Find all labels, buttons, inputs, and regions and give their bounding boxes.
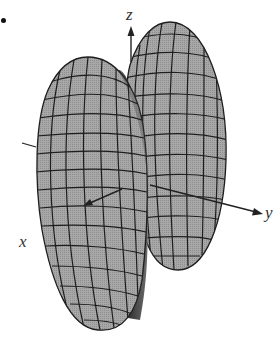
- y-axis-label: y: [265, 204, 273, 221]
- z-axis-label: z: [126, 6, 133, 23]
- surface-plot: [0, 0, 275, 341]
- x-axis-label: x: [19, 233, 27, 250]
- left-lobe: [36, 50, 150, 335]
